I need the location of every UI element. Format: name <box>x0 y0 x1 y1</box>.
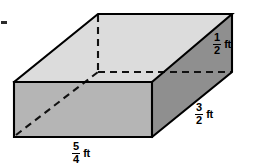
height-unit: ft <box>224 39 231 50</box>
figure-container: 1 2 ft 3 2 ft 5 4 ft <box>0 0 266 165</box>
depth-numerator: 3 <box>195 102 203 114</box>
depth-dimension-label: 3 2 ft <box>195 102 213 127</box>
height-dimension-label: 1 2 ft <box>213 32 231 57</box>
width-numerator: 5 <box>72 141 80 153</box>
width-denominator: 4 <box>72 153 80 165</box>
height-fraction: 1 2 <box>213 32 221 57</box>
depth-fraction: 3 2 <box>195 102 203 127</box>
width-fraction: 5 4 <box>72 141 80 165</box>
height-denominator: 2 <box>213 44 221 57</box>
prism-drawing <box>0 0 266 165</box>
width-unit: ft <box>83 148 90 159</box>
cropped-edge-dash-icon <box>1 21 7 24</box>
width-dimension-label: 5 4 ft <box>72 141 90 165</box>
depth-unit: ft <box>206 109 213 120</box>
front-face <box>14 82 152 137</box>
depth-denominator: 2 <box>195 114 203 127</box>
height-numerator: 1 <box>213 32 221 44</box>
